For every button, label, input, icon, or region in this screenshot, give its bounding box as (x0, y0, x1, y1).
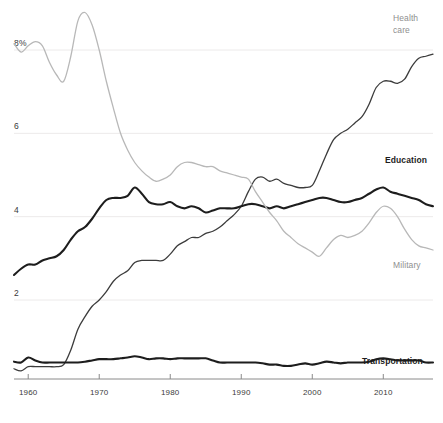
x-axis-group: 196019701980199020002010 (14, 374, 433, 397)
x-axis-tick-label-2010: 2010 (374, 388, 393, 397)
series-line-health-care (14, 54, 433, 371)
series-labels-group: HealthcareEducationMilitaryTransportatio… (362, 13, 427, 366)
gridlines-group (14, 50, 433, 300)
series-label-education: Education (385, 155, 427, 165)
x-axis-tick-label-1990: 1990 (232, 388, 251, 397)
x-axis-tick-label-1970: 1970 (90, 388, 109, 397)
y-axis-labels-group: 8%642 (14, 38, 27, 298)
x-axis-tick-label-1980: 1980 (161, 388, 180, 397)
chart-container: 8%642 196019701980199020002010 Healthcar… (0, 0, 443, 423)
y-axis-tick-label-2: 2 (14, 288, 19, 298)
y-axis-tick-label-4: 4 (14, 205, 19, 215)
x-axis-tick-label-1960: 1960 (19, 388, 38, 397)
series-label-military: Military (393, 260, 421, 270)
y-axis-tick-label-6: 6 (14, 121, 19, 131)
series-label-health-care-line1: Health (393, 13, 418, 23)
series-line-education (14, 187, 433, 275)
line-chart: 8%642 196019701980199020002010 Healthcar… (0, 0, 443, 423)
series-label-transportation: Transportation (362, 356, 423, 366)
series-label-health-care-line2: care (393, 25, 410, 35)
x-axis-tick-label-2000: 2000 (303, 388, 322, 397)
series-line-military (14, 12, 433, 256)
series-lines-group (14, 12, 433, 371)
